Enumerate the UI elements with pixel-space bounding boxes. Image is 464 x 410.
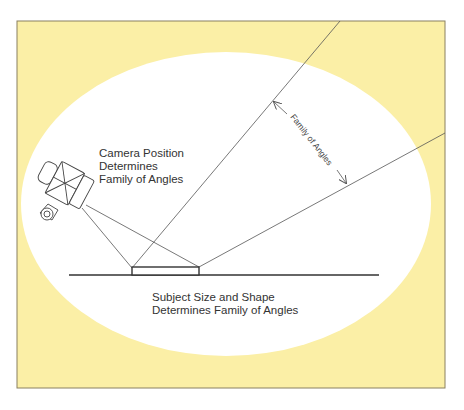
family-of-angles-diagram: Camera Position Determines Family of Ang… <box>0 0 464 410</box>
subject-box <box>132 267 199 275</box>
subject-label: Subject Size and Shape Determines Family… <box>152 291 299 316</box>
